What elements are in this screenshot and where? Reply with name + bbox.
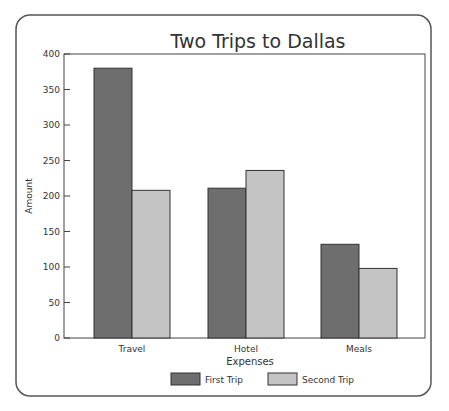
y-tick-label: 350 (43, 85, 60, 95)
legend-swatch (171, 373, 200, 385)
y-tick-label: 250 (43, 156, 60, 166)
bar (359, 268, 397, 338)
y-axis-label: Amount (24, 178, 34, 214)
bar (246, 170, 284, 338)
bar (94, 68, 132, 338)
x-axis-label: Expenses (226, 356, 274, 367)
x-axis: TravelHotelMeals (118, 344, 373, 354)
bar (132, 190, 170, 338)
x-tick-label: Meals (346, 344, 372, 354)
bars (94, 68, 397, 338)
y-tick-label: 0 (54, 333, 60, 343)
legend-label: Second Trip (302, 375, 354, 385)
bar (321, 244, 359, 338)
chart-title: Two Trips to Dallas (169, 30, 345, 52)
y-tick-label: 300 (43, 120, 60, 130)
y-tick-label: 200 (43, 191, 60, 201)
legend-label: First Trip (205, 375, 243, 385)
y-tick-label: 50 (49, 298, 61, 308)
legend-swatch (268, 373, 297, 385)
y-tick-label: 150 (43, 227, 60, 237)
bar (208, 188, 246, 338)
chart: Two Trips to Dallas 05010015020025030035… (0, 0, 449, 411)
y-tick-label: 400 (43, 49, 60, 59)
y-axis: 050100150200250300350400 (43, 49, 70, 343)
y-tick-label: 100 (43, 262, 60, 272)
x-tick-label: Travel (118, 344, 146, 354)
legend: First TripSecond Trip (171, 373, 354, 385)
x-tick-label: Hotel (234, 344, 258, 354)
